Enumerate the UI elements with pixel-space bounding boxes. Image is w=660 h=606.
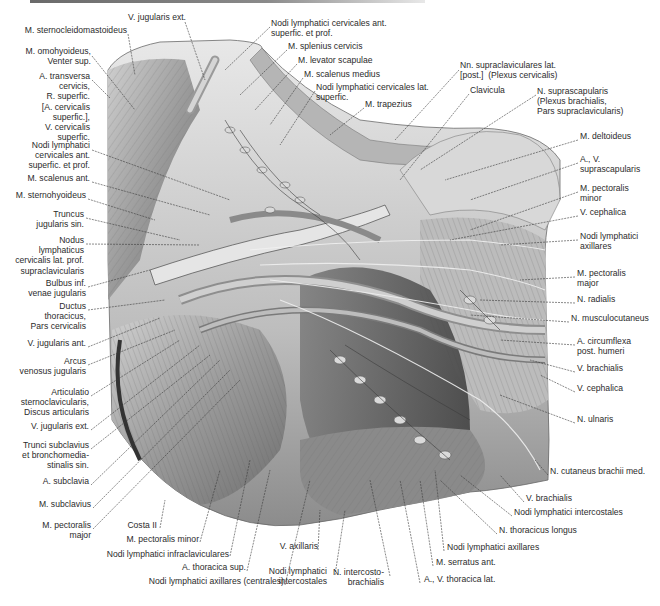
label-m-levator-scapulae: M. levator scapulae — [298, 55, 373, 65]
label-m-sternocleidomastoideus: M. sternocleidomastoideus — [25, 25, 127, 35]
label-m-scalenus-ant: M. scalenus ant. — [27, 173, 90, 183]
label-a-thoracica-sup: A. thoracica sup. — [182, 562, 246, 572]
label-a-v-thoracica-lat: A., V. thoracica lat. — [424, 574, 495, 584]
label-a-subclavia: A. subclavia — [43, 476, 89, 486]
label-v-brachialis-bottom: V. brachialis — [526, 493, 572, 503]
label-v-jugularis-ext-bottom: V. jugularis ext. — [31, 421, 89, 431]
label-v-jugularis-ant: V. jugularis ant. — [28, 338, 86, 348]
label-nodi-cervicales-ant-top: Nodi lymphatici cervicales ant. superfic… — [271, 18, 387, 38]
label-nodi-infraclaviculares: Nodi lymphatici infraclaviculares — [107, 549, 229, 559]
label-nodi-intercostales-bottom: Nodi lymphatici intercostales — [269, 566, 327, 586]
label-a-transversa-cervicis: A. transversa cervicis, R. superfic. [A.… — [39, 71, 90, 142]
label-trunci-subclavius: Trunci subclavius et bronchomedia- stina… — [22, 440, 89, 471]
label-m-trapezius: M. trapezius — [365, 99, 412, 109]
label-n-cutaneus-brachii: N. cutaneus brachii med. — [550, 466, 645, 476]
label-nodi-cervicales-ant-left: Nodi lymphatici cervicales ant. superfic… — [28, 140, 90, 171]
label-n-suprascapularis: N. suprascapularis (Plexus brachialis, P… — [537, 86, 623, 117]
label-m-pectoralis-major-right: M. pectoralis major — [577, 268, 626, 288]
label-nn-supraclaviculares: Nn. supraclaviculares lat. [post.] (Plex… — [460, 60, 557, 80]
label-m-scalenus-medius: M. scalenus medius — [304, 69, 380, 79]
label-n-radialis: N. radialis — [577, 294, 615, 304]
label-m-pectoralis-major-left: M. pectoralis major — [42, 520, 91, 540]
label-nodi-axillares-centrales: Nodi lymphatici axillares (centrales) — [149, 576, 284, 586]
label-nodus-supraclavicularis: Nodus lymphaticus cervicalis lat. prof. … — [15, 235, 84, 276]
label-v-jugularis-ext-top: V. jugularis ext. — [128, 12, 186, 22]
label-m-subclavius: M. subclavius — [39, 499, 91, 509]
label-nodi-axillares-right: Nodi lymphatici axillares — [580, 231, 638, 251]
label-v-brachialis-right: V. brachialis — [577, 363, 623, 373]
label-n-ulnaris: N. ulnaris — [577, 414, 613, 424]
label-n-musculocutaneus: N. musculocutaneus — [571, 313, 649, 323]
label-m-serratus-ant: M. serratus ant. — [436, 557, 496, 567]
label-clavicula: Clavicula — [470, 85, 505, 95]
label-v-axillaris: V. axillaris — [280, 541, 318, 551]
label-v-cephalica-top: V. cephalica — [580, 207, 626, 217]
label-n-thoracicus-longus: N. thoracicus longus — [499, 525, 577, 535]
label-bulbus-inf: Bulbus inf. venae jugularis — [28, 278, 86, 298]
label-m-pectoralis-minor-right: M. pectoralis minor — [580, 183, 629, 203]
label-nodi-axillares-bottom: Nodi lymphatici axillares — [447, 542, 539, 552]
label-arcus-venosus: Arcus venosus jugularis — [20, 356, 86, 376]
label-a-circumflexa: A. circumflexa post. humeri — [577, 336, 631, 356]
label-truncus-jugularis: Truncus jugularis sin. — [36, 209, 84, 229]
label-nodi-intercostales-right: Nodi lymphatici intercostales — [514, 507, 623, 517]
label-m-sternohyoideus: M. sternohyoideus — [16, 190, 86, 200]
label-av-suprascapularis: A., V. suprascapularis — [580, 154, 640, 174]
label-articulatio-sternoclavicularis: Articulatio sternoclavicularis, Discus a… — [21, 387, 89, 418]
label-ductus-thoracicus: Ductus thoracicus, Pars cervicalis — [31, 301, 86, 332]
label-m-splenius-cervicis: M. splenius cervicis — [288, 41, 363, 51]
label-v-cephalica-bottom: V. cephalica — [577, 383, 623, 393]
label-m-deltoideus: M. deltoideus — [580, 131, 631, 141]
label-m-omohyoideus: M. omohyoideus, Venter sup. — [26, 46, 91, 66]
label-m-pectoralis-minor-bottom: M. pectoralis minor — [126, 534, 199, 544]
label-costa-ii: Costa II — [127, 520, 157, 530]
label-n-intercostobrachialis: N. intercosto- brachialis — [333, 567, 384, 587]
